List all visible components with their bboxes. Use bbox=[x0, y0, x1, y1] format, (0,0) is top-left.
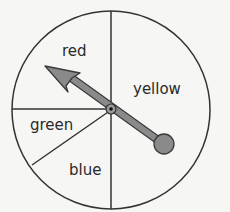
pointer-tail-ball bbox=[154, 134, 174, 154]
section-label-blue: blue bbox=[69, 163, 101, 178]
section-label-red: red bbox=[62, 44, 87, 59]
spinner-graphic bbox=[0, 0, 230, 212]
pivot-dot bbox=[109, 107, 113, 111]
spinner-diagram: red yellow green blue bbox=[0, 0, 230, 212]
section-label-yellow: yellow bbox=[133, 82, 181, 97]
section-label-green: green bbox=[30, 118, 73, 133]
